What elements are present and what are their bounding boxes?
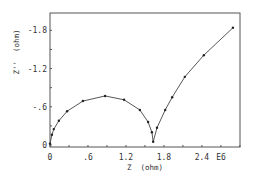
data-point	[147, 121, 149, 123]
x-tick-label: .6	[83, 153, 93, 162]
y-tick-label: -1.8	[28, 26, 47, 35]
data-point	[156, 127, 158, 129]
data-point	[139, 109, 141, 111]
y-axis-title: Z'' (ohm)	[12, 29, 21, 74]
x-tick-labels: 0.61.21.82.4	[48, 153, 210, 162]
nyquist-chart: 0.61.21.82.4 0-.6-1.2-1.8 E6 Z (ohm) Z''…	[0, 0, 254, 179]
x-tick-label: 1.8	[157, 153, 172, 162]
data-point	[152, 141, 154, 143]
data-series	[49, 27, 234, 145]
data-point	[164, 109, 166, 111]
data-point	[203, 54, 205, 56]
data-point	[58, 120, 60, 122]
y-tick-label: -1.2	[28, 65, 47, 74]
x-tick-label: 2.4	[195, 153, 210, 162]
data-point	[82, 100, 84, 102]
x-tick-label: 0	[48, 153, 53, 162]
x-multiplier-label: E6	[216, 153, 226, 162]
x-tick-label: 1.2	[119, 153, 134, 162]
data-point	[49, 143, 51, 145]
series-line	[50, 28, 233, 144]
data-point	[66, 110, 68, 112]
data-point	[232, 27, 234, 29]
data-point	[104, 95, 106, 97]
data-point	[123, 99, 125, 101]
data-point	[51, 134, 53, 136]
data-point	[53, 128, 55, 130]
data-point	[171, 96, 173, 98]
x-axis-title: Z (ohm)	[127, 163, 163, 172]
data-point	[151, 131, 153, 133]
data-point	[184, 76, 186, 78]
y-tick-labels: 0-.6-1.2-1.8	[28, 26, 47, 150]
y-tick-label: 0	[42, 141, 47, 150]
y-tick-label: -.6	[33, 103, 48, 112]
plot-frame	[50, 13, 240, 147]
